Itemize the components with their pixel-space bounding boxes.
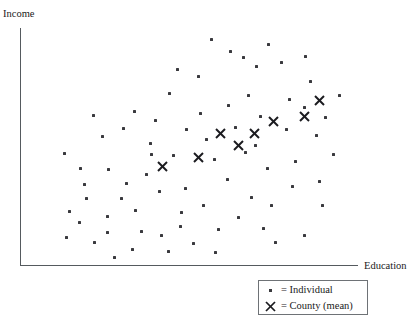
county-mean-marker: [192, 151, 205, 164]
legend-dot-icon: [259, 289, 281, 292]
individual-point: [254, 144, 257, 147]
legend-x-cross-icon: [259, 301, 281, 312]
individual-point: [267, 43, 270, 46]
individual-point: [158, 190, 161, 193]
individual-point: [288, 98, 291, 101]
individual-point: [294, 160, 297, 163]
individual-point: [213, 158, 216, 161]
individual-point: [197, 75, 200, 78]
individual-point: [205, 138, 208, 141]
individual-point: [338, 94, 341, 97]
county-mean-marker: [313, 94, 326, 107]
individual-point: [266, 167, 269, 170]
individual-point: [160, 234, 163, 237]
individual-point: [244, 151, 247, 154]
individual-point: [192, 242, 195, 245]
individual-point: [270, 204, 273, 207]
individual-point: [68, 210, 71, 213]
x-axis-label: Education: [364, 261, 407, 272]
individual-point: [93, 241, 96, 244]
individual-point: [247, 94, 250, 97]
county-mean-marker: [214, 127, 227, 140]
individual-point: [125, 182, 128, 185]
individual-point: [107, 168, 110, 171]
individual-point: [106, 231, 109, 234]
legend-item-county: = County (mean): [259, 298, 367, 315]
county-mean-marker: [298, 110, 311, 123]
individual-point: [168, 92, 171, 95]
individual-point: [250, 196, 253, 199]
individual-point: [242, 56, 245, 59]
individual-point: [113, 256, 116, 259]
individual-point: [106, 215, 109, 218]
individual-point: [63, 152, 66, 155]
plot-area: [0, 0, 415, 322]
individual-point: [214, 251, 217, 254]
individual-point: [332, 153, 335, 156]
individual-point: [185, 128, 188, 131]
individual-point: [180, 211, 183, 214]
individual-point: [315, 134, 318, 137]
individual-point: [280, 61, 283, 64]
individual-point: [184, 187, 187, 190]
county-mean-marker: [248, 127, 261, 140]
individual-point: [83, 183, 86, 186]
individual-point: [227, 104, 230, 107]
individual-point: [85, 197, 88, 200]
individual-point: [199, 112, 202, 115]
individual-point: [262, 227, 265, 230]
county-mean-marker: [267, 115, 280, 128]
individual-point: [149, 142, 152, 145]
individual-point: [217, 228, 220, 231]
individual-point: [324, 116, 327, 119]
individual-point: [133, 110, 136, 113]
individual-point: [303, 106, 306, 109]
individual-point: [321, 204, 324, 207]
individual-point: [134, 209, 137, 212]
individual-point: [255, 65, 258, 68]
individual-point: [304, 55, 307, 58]
legend-label-individual: = Individual: [281, 285, 333, 296]
legend-label-county: = County (mean): [281, 301, 353, 312]
y-axis-line: [20, 28, 21, 266]
individual-point: [154, 119, 157, 122]
individual-point: [210, 38, 213, 41]
individual-point: [303, 234, 306, 237]
individual-point: [226, 178, 229, 181]
scatter-plot-figure: Income Education = Individual = County (…: [0, 0, 415, 322]
individual-point: [65, 236, 68, 239]
individual-point: [172, 154, 175, 157]
county-mean-marker: [156, 160, 169, 173]
individual-point: [291, 185, 294, 188]
individual-point: [318, 180, 321, 183]
individual-point: [150, 153, 153, 156]
individual-point: [229, 50, 232, 53]
individual-point: [237, 216, 240, 219]
individual-point: [145, 173, 148, 176]
individual-point: [176, 68, 179, 71]
individual-point: [120, 197, 123, 200]
individual-point: [309, 80, 312, 83]
legend-item-individual: = Individual: [259, 282, 367, 299]
individual-point: [167, 250, 170, 253]
x-axis-line: [20, 265, 358, 266]
individual-point: [131, 248, 134, 251]
individual-point: [274, 241, 277, 244]
individual-point: [179, 225, 182, 228]
individual-point: [285, 128, 288, 131]
individual-point: [92, 114, 95, 117]
individual-point: [101, 135, 104, 138]
individual-point: [259, 115, 262, 118]
individual-point: [122, 127, 125, 130]
individual-point: [140, 230, 143, 233]
y-axis-label: Income: [3, 9, 35, 20]
county-mean-marker: [232, 139, 245, 152]
chart-legend: = Individual = County (mean): [258, 280, 368, 315]
individual-point: [78, 221, 81, 224]
individual-point: [202, 204, 205, 207]
individual-point: [79, 167, 82, 170]
individual-point: [234, 126, 237, 129]
